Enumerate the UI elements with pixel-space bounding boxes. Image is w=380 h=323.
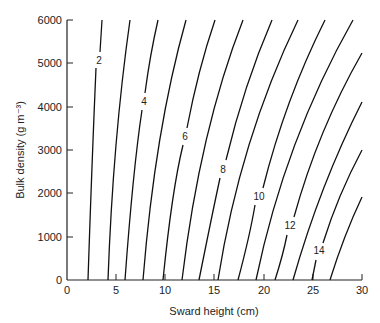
- x-axis-title: Sward height (cm): [169, 305, 258, 317]
- contour-chart: 0 1000 2000 3000 4000 5000 6000 0 5 10 1…: [0, 0, 380, 323]
- y-tick-labels: 0 1000 2000 3000 4000 5000 6000: [38, 14, 62, 286]
- contour-14-top: [323, 150, 362, 243]
- contour-4: [125, 110, 142, 280]
- contour-8: [199, 178, 220, 280]
- contour-8-top: [226, 20, 272, 160]
- contour-label-2: 2: [96, 55, 102, 66]
- contour-6-top: [187, 20, 215, 128]
- contour-3: [108, 20, 130, 280]
- y-tick-label: 1000: [38, 231, 62, 243]
- contour-13: [293, 102, 362, 280]
- x-ticks: [116, 274, 313, 280]
- y-axis-title: Bulk density (g m⁻³): [14, 101, 26, 199]
- x-tick-label: 10: [159, 284, 171, 296]
- y-tick-label: 0: [56, 274, 62, 286]
- contour-label-14: 14: [313, 245, 325, 256]
- y-tick-label: 4000: [38, 101, 62, 113]
- y-tick-label: 6000: [38, 14, 62, 26]
- x-tick-label: 0: [64, 284, 70, 296]
- x-tick-labels: 0 5 10 15 20 25 30: [64, 284, 368, 296]
- contour-10-top: [263, 20, 325, 188]
- y-ticks: [67, 20, 73, 237]
- contour-7: [182, 20, 243, 280]
- y-tick-label: 5000: [38, 57, 62, 69]
- contour-12: [275, 235, 287, 280]
- contour-lines: [88, 20, 362, 280]
- contour-label-4: 4: [141, 96, 147, 107]
- x-tick-label: 20: [258, 284, 270, 296]
- contour-12-top: [294, 53, 362, 217]
- contour-label-10: 10: [253, 191, 265, 202]
- contour-2: [88, 68, 96, 280]
- x-tick-label: 30: [356, 284, 368, 296]
- contour-5: [143, 20, 186, 280]
- y-tick-label: 3000: [38, 144, 62, 156]
- x-tick-label: 5: [113, 284, 119, 296]
- contour-14: [312, 260, 316, 280]
- contour-4-top: [145, 20, 158, 93]
- x-tick-label: 25: [307, 284, 319, 296]
- contour-label-6: 6: [182, 131, 188, 142]
- contour-label-8: 8: [220, 164, 226, 175]
- y-tick-label: 2000: [38, 187, 62, 199]
- contour-10: [238, 205, 255, 280]
- contour-label-12: 12: [284, 220, 296, 231]
- x-tick-label: 15: [208, 284, 220, 296]
- contour-6: [163, 145, 183, 280]
- contour-2-top: [100, 20, 102, 52]
